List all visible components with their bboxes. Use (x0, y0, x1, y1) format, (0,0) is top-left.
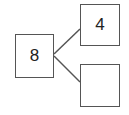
connector-line-top (54, 29, 80, 54)
part-value-top: 4 (95, 15, 104, 35)
whole-box: 8 (15, 34, 54, 78)
part-box-top: 4 (80, 4, 120, 46)
connector-line-bottom (54, 56, 80, 82)
whole-value: 8 (30, 46, 39, 66)
part-box-bottom[interactable] (80, 64, 120, 107)
